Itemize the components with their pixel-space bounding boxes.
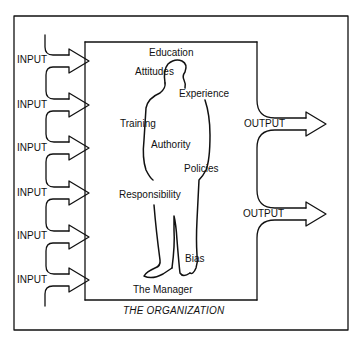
diagram-caption: THE ORGANIZATION <box>123 306 224 316</box>
output-label-1: OUTPUT <box>244 119 285 129</box>
input-label-4: INPUT <box>17 188 47 198</box>
output-label-2: OUTPUT <box>243 209 284 219</box>
input-label-2: INPUT <box>17 100 47 110</box>
output-arrow-2 <box>306 202 326 226</box>
attribute-responsibility: Responsibility <box>119 190 181 200</box>
output-arrow-1 <box>306 112 326 136</box>
attribute-experience: Experience <box>179 89 229 99</box>
attribute-authority: Authority <box>151 140 190 150</box>
attribute-education: Education <box>149 48 193 58</box>
input-label-3: INPUT <box>17 143 47 153</box>
input-label-1: INPUT <box>17 55 47 65</box>
attribute-policies: Policies <box>184 164 218 174</box>
input-label-5: INPUT <box>17 231 47 241</box>
attribute-training: Training <box>120 119 156 129</box>
figure-label-manager: The Manager <box>133 285 192 295</box>
attribute-bias: Bias <box>185 254 204 264</box>
attribute-attitudes: Attitudes <box>135 67 174 77</box>
outer-frame <box>14 16 348 330</box>
organization-diagram: INPUT INPUT INPUT INPUT INPUT INPUT OUTP… <box>0 0 360 360</box>
input-flows <box>45 35 89 306</box>
input-label-6: INPUT <box>17 275 47 285</box>
